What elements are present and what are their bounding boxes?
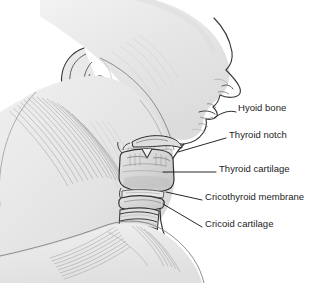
label-cricoid-cartilage: Cricoid cartilage (205, 218, 273, 229)
label-thyroid-cartilage: Thyroid cartilage (219, 163, 290, 174)
label-cricothyroid-membrane: Cricothyroid membrane (205, 191, 304, 202)
anatomical-figure: Hyoid bone Thyroid notch Thyroid cartila… (0, 0, 326, 283)
label-thyroid-notch: Thyroid notch (229, 129, 287, 140)
leader-cricoid-cartilage (163, 204, 202, 227)
label-hyoid-bone: Hyoid bone (238, 102, 286, 113)
anatomy-illustration (0, 0, 326, 283)
leader-thyroid-notch (178, 138, 226, 152)
